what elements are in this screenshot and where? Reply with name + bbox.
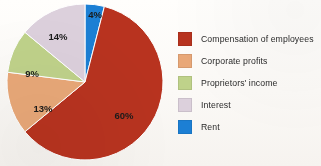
pie-chart-figure: 4%60%13%9%14% Compensation of employeesC… (0, 0, 321, 166)
pie-svg: 4%60%13%9%14% (0, 0, 180, 166)
legend-item-label: Compensation of employees (201, 34, 314, 44)
legend-item-label: Rent (201, 122, 220, 132)
legend-item[interactable]: Compensation of employees (178, 28, 321, 50)
pie-slice-value-label: 9% (25, 68, 39, 79)
chart-legend: Compensation of employeesCorporate profi… (178, 28, 321, 138)
pie-slice-value-label: 13% (33, 103, 53, 114)
pie-chart-plot-area: 4%60%13%9%14% (0, 0, 180, 166)
legend-color-swatch (178, 76, 192, 90)
pie-slice-value-label: 60% (114, 110, 134, 121)
legend-item-label: Proprietors' income (201, 78, 277, 88)
legend-color-swatch (178, 98, 192, 112)
legend-color-swatch (178, 120, 192, 134)
legend-item[interactable]: Interest (178, 94, 321, 116)
legend-item-label: Interest (201, 100, 231, 110)
legend-color-swatch (178, 32, 192, 46)
legend-item[interactable]: Proprietors' income (178, 72, 321, 94)
legend-item[interactable]: Corporate profits (178, 50, 321, 72)
legend-item-label: Corporate profits (201, 56, 267, 66)
pie-slices-group (7, 4, 163, 160)
pie-slice-value-label: 14% (48, 31, 68, 42)
legend-color-swatch (178, 54, 192, 68)
pie-slice-value-label: 4% (88, 9, 102, 20)
legend-item[interactable]: Rent (178, 116, 321, 138)
